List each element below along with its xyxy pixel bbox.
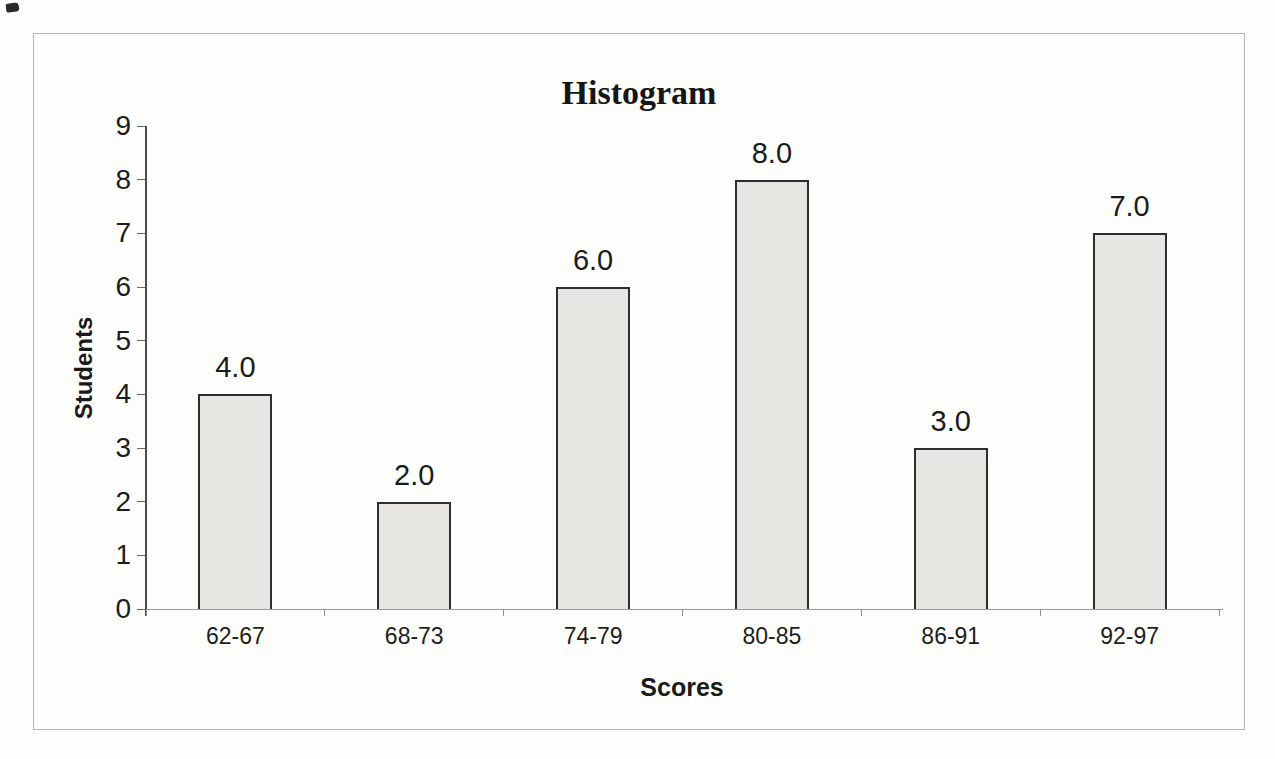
bar-74-79 [556, 287, 630, 609]
bar-68-73 [377, 502, 451, 609]
y-tick-mark [137, 609, 145, 610]
y-tick-mark [137, 448, 145, 449]
y-tick-label: 5 [115, 327, 131, 355]
y-tick-mark [137, 394, 145, 395]
y-tick-mark [137, 501, 145, 502]
y-tick-label: 7 [115, 219, 131, 247]
bar-value-label: 4.0 [215, 353, 255, 382]
y-tick-mark [137, 179, 145, 180]
x-axis-line [137, 609, 1223, 610]
y-tick-label: 3 [115, 434, 131, 462]
x-category-label: 68-73 [385, 623, 444, 650]
y-tick-label: 0 [115, 595, 131, 623]
y-tick-mark [137, 233, 145, 234]
bar-value-label: 3.0 [931, 407, 971, 436]
x-tick-mark [861, 609, 862, 616]
bar-62-67 [198, 394, 272, 609]
y-tick-mark [137, 555, 145, 556]
x-tick-mark [503, 609, 504, 616]
bar-92-97 [1093, 233, 1167, 609]
bar-value-label: 2.0 [394, 461, 434, 490]
y-tick-mark [137, 287, 145, 288]
x-tick-mark [146, 609, 147, 616]
chart-frame: Histogram Students 01234567894.062-672.0… [33, 33, 1245, 730]
y-tick-mark [137, 126, 145, 127]
x-tick-mark [682, 609, 683, 616]
bar-86-91 [914, 448, 988, 609]
y-axis-line [145, 126, 147, 616]
bar-80-85 [735, 180, 809, 609]
y-tick-label: 8 [115, 166, 131, 194]
y-tick-label: 2 [115, 488, 131, 516]
bar-value-label: 7.0 [1109, 192, 1149, 221]
x-tick-mark [1219, 609, 1220, 616]
y-tick-label: 9 [115, 112, 131, 140]
x-tick-mark [324, 609, 325, 616]
x-category-label: 80-85 [742, 623, 801, 650]
y-tick-label: 1 [115, 541, 131, 569]
y-axis-title: Students [70, 317, 98, 420]
bar-value-label: 8.0 [752, 139, 792, 168]
x-category-label: 86-91 [921, 623, 980, 650]
bar-value-label: 6.0 [573, 246, 613, 275]
x-category-label: 62-67 [206, 623, 265, 650]
x-category-label: 92-97 [1100, 623, 1159, 650]
plot-area: 01234567894.062-672.068-736.074-798.080-… [146, 126, 1219, 609]
y-tick-label: 4 [115, 380, 131, 408]
y-tick-mark [137, 340, 145, 341]
x-tick-mark [1040, 609, 1041, 616]
x-category-label: 74-79 [564, 623, 623, 650]
scanned-page: Histogram Students 01234567894.062-672.0… [0, 0, 1275, 759]
scan-artifact [5, 2, 19, 13]
chart-title: Histogram [34, 74, 1244, 112]
x-axis-title: Scores [640, 673, 723, 702]
y-tick-label: 6 [115, 273, 131, 301]
